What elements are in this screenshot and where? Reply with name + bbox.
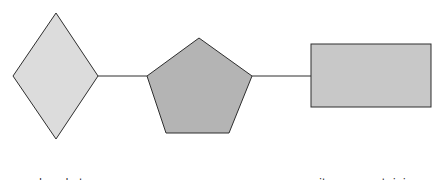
base-label-line1: nitrogen-containing bbox=[312, 175, 420, 180]
base-label: nitrogen-containing base bbox=[312, 145, 420, 180]
phosphate-label-line1: phosphate bbox=[32, 175, 90, 180]
phosphate-diamond bbox=[13, 13, 98, 139]
sugar-pentagon bbox=[147, 38, 252, 133]
phosphate-label: phosphate group bbox=[32, 145, 90, 180]
sugar-label: sugar (pentose) bbox=[165, 145, 218, 180]
sugar-label-line1: sugar bbox=[165, 175, 218, 180]
base-rectangle bbox=[311, 44, 431, 107]
